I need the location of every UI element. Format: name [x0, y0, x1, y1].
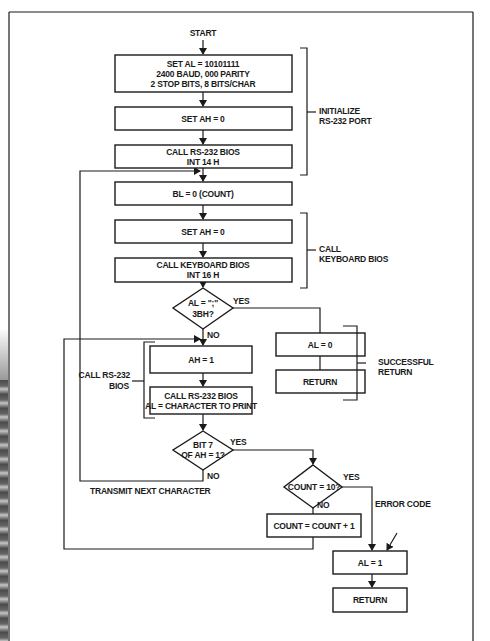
annotation-success-line-1: SUCCESSFUL — [378, 357, 434, 367]
annotation-keyboard-line-1: CALL — [319, 244, 341, 254]
decision-bit7-line-1: BIT 7 — [193, 440, 213, 450]
set-al-line-3: 2 STOP BITS, 8 BITS/CHAR — [151, 79, 256, 89]
process-boxes — [115, 55, 407, 612]
bit7-yes-label: YES — [230, 437, 246, 447]
set-ah-0-label: SET AH = 0 — [181, 114, 224, 124]
set-al-line-1: SET AL = 10101111 — [167, 59, 239, 69]
al-1-label: AL = 1 — [358, 558, 382, 568]
decision-count-label: COUNT = 10? — [288, 482, 340, 492]
annotation-success-line-2: RETURN — [378, 367, 412, 377]
call-rs232-print-line-2: AL = CHARACTER TO PRINT — [145, 401, 257, 411]
return-success-label: RETURN — [303, 377, 337, 387]
decision-bit7-line-2: OF AH = 1? — [181, 450, 225, 460]
decision-semicolon-line-1: AL = ";" — [188, 298, 218, 308]
annotation-rs232-line-2: BIOS — [60, 381, 129, 391]
count-inc-label: COUNT = COUNT + 1 — [273, 521, 354, 531]
count-no-label: NO — [317, 500, 329, 510]
ah-1-label: AH = 1 — [188, 355, 214, 365]
call-rs232-print-line-1: CALL RS-232 BIOS — [164, 391, 238, 401]
count-yes-label: YES — [343, 472, 359, 482]
call-rs232-init-line-2: INT 14 H — [187, 157, 219, 167]
start-label: START — [190, 28, 217, 38]
annotation-error-code: ERROR CODE — [375, 499, 431, 509]
semicolon-no-label: NO — [207, 330, 219, 340]
return-error-label: RETURN — [353, 595, 387, 605]
annotation-initialize-line-2: RS-232 PORT — [319, 116, 372, 126]
set-ah-0-second-label: SET AH = 0 — [181, 227, 224, 237]
annotation-transmit-next: TRANSMIT NEXT CHARACTER — [90, 486, 211, 496]
annotation-rs232-line-1: CALL RS-232 — [60, 370, 130, 380]
semicolon-yes-label: YES — [233, 296, 249, 306]
annotation-keyboard-line-2: KEYBOARD BIOS — [319, 254, 388, 264]
decision-semicolon-line-2: 3BH? — [192, 309, 213, 319]
call-keyboard-line-1: CALL KEYBOARD BIOS — [156, 260, 249, 270]
bit7-no-label: NO — [207, 471, 219, 481]
call-rs232-init-line-1: CALL RS-232 BIOS — [166, 147, 240, 157]
call-keyboard-line-2: INT 16 H — [187, 270, 219, 280]
flowchart-canvas — [0, 0, 490, 641]
bl-zero-label: BL = 0 (COUNT) — [172, 189, 233, 199]
al-0-label: AL = 0 — [308, 340, 332, 350]
annotation-initialize-line-1: INITIALIZE — [319, 106, 360, 116]
set-al-line-2: 2400 BAUD, 000 PARITY — [156, 69, 249, 79]
